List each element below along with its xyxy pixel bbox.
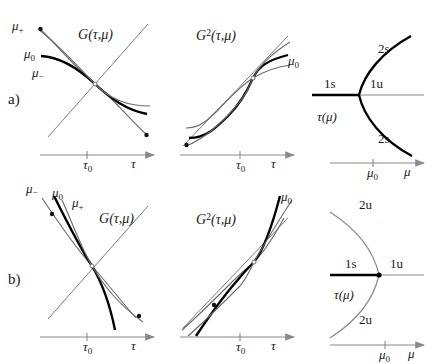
- row-a-map2-panel: [180, 36, 294, 159]
- curve-thin-lower-a2: [186, 65, 290, 128]
- fixed-point-a2: [251, 76, 255, 80]
- endpoint-dot-a2: [184, 143, 188, 147]
- mu-axis-label-b: μ: [408, 347, 415, 360]
- map-title-b: G(τ,μ): [99, 212, 134, 226]
- mu0-label-a: μ0: [367, 166, 378, 182]
- map-title-a: G(τ,μ): [78, 28, 113, 42]
- map2-title-a: G2(τ,μ): [196, 28, 236, 43]
- curve-label-mu-plus-b: μ+: [72, 196, 84, 212]
- tau0-label-a2: τ0: [236, 158, 245, 174]
- curve-label-mu-minus-a: μ−: [32, 66, 44, 82]
- row-b-map-panel: [40, 196, 154, 341]
- curve-mu-zero-a2: [189, 55, 288, 138]
- endpoint-dot-a-lower: [144, 133, 148, 137]
- tau0-label-a: τ0: [83, 158, 92, 174]
- endpoint-dot-b-upper: [50, 212, 54, 216]
- fixed-point-b: [90, 264, 94, 268]
- curve-label-mu-zero-b: μ0: [52, 186, 63, 202]
- tau0-label-b2: τ0: [236, 340, 245, 356]
- row-a-bifurcation-panel: [312, 36, 424, 167]
- curve-label-mu-plus-a: μ+: [12, 19, 24, 35]
- endpoint-dot-a-upper: [38, 27, 42, 31]
- curve-label-mu-zero-a2: μ0: [288, 54, 299, 70]
- branch-label-2u-lower-b: 2u: [359, 313, 372, 326]
- branch-label-1s-b: 1s: [345, 257, 357, 270]
- branch-label-1u-b: 1u: [390, 257, 403, 270]
- row-b-bifurcation-panel: [330, 212, 424, 349]
- endpoint-dot-b2: [212, 303, 216, 307]
- identity-diagonal-a2: [183, 36, 288, 146]
- tau-of-mu-label-b: τ(μ): [334, 288, 354, 301]
- figure-canvas: [0, 0, 432, 364]
- branch-label-2s-upper-a: 2s: [378, 42, 390, 55]
- panel-letter-b: b): [8, 272, 21, 287]
- bifurcation-point-b: [376, 272, 381, 277]
- curve-label-mu-zero-b2: μ0: [281, 190, 292, 206]
- mu0-label-b: μ0: [379, 348, 390, 364]
- curve-label-mu-minus-b: μ−: [26, 182, 38, 198]
- tau0-label-b: τ0: [83, 340, 92, 356]
- map2-title-b: G2(τ,μ): [196, 212, 236, 227]
- fixed-point-a: [93, 82, 97, 86]
- tau-axis-label-b2: τ: [271, 339, 276, 352]
- bifurcation-figure: a) μ+ μ0 μ− G(τ,μ) τ0 τ G2(τ,μ) μ0 τ0 τ …: [0, 0, 432, 364]
- row-a-map-panel: [38, 24, 154, 159]
- branch-label-1u-a: 1u: [370, 77, 383, 90]
- branch-label-2s-lower-a: 2s: [378, 132, 390, 145]
- endpoint-dot-b-lower: [137, 314, 141, 318]
- curve-thin-steeper-a2: [186, 42, 290, 146]
- curve-label-mu-zero-a: μ0: [24, 47, 35, 63]
- panel-letter-a: a): [8, 92, 20, 107]
- identity-diagonal-b2: [183, 218, 288, 328]
- tau-of-mu-label-a: τ(μ): [317, 110, 337, 123]
- branch-label-2u-upper-b: 2u: [359, 198, 372, 211]
- branch-label-1s-a: 1s: [324, 77, 336, 90]
- fixed-point-b2: [252, 260, 256, 264]
- tau-axis-label-a2: τ: [271, 157, 276, 170]
- tau-axis-label-b: τ: [131, 339, 136, 352]
- tau-axis-label-a: τ: [131, 157, 136, 170]
- mu-axis-label-a: μ: [404, 165, 411, 178]
